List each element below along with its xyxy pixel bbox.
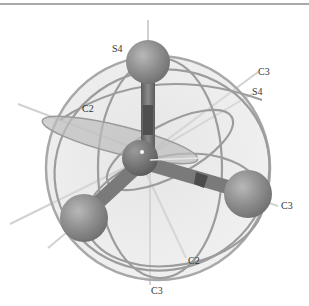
label-c2-left: C2	[82, 104, 94, 114]
label-s4-right: S4	[252, 87, 263, 97]
label-c3-right: C3	[281, 201, 293, 211]
molecule-diagram	[0, 0, 309, 306]
label-c3-bottom: C3	[151, 286, 163, 296]
label-s4-top: S4	[112, 44, 123, 54]
atom-top	[126, 40, 170, 84]
bond-top-shadow	[143, 105, 153, 135]
atom-right	[224, 170, 272, 218]
label-c2-bottom: C2	[188, 256, 200, 266]
atom-bottom-left	[60, 194, 108, 242]
central-atom-highlight	[140, 150, 144, 154]
label-c3-upper-right: C3	[258, 67, 270, 77]
central-atom	[122, 140, 158, 176]
